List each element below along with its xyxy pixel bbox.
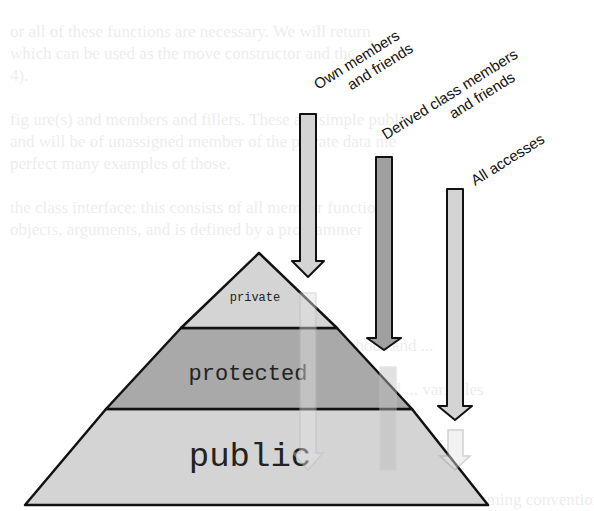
arrow-2-faded — [380, 367, 396, 470]
pyramid: private protected public — [25, 253, 488, 505]
label-all-accesses: All accesses — [468, 130, 548, 189]
layer-label-public: public — [189, 438, 311, 476]
layer-label-private: private — [230, 291, 280, 305]
label-all-accesses-line1: All accesses — [468, 130, 548, 189]
arrow-derived-members — [367, 157, 401, 350]
access-pyramid-diagram: private protected public Own members and… — [0, 0, 594, 511]
arrow-all-accesses — [438, 189, 472, 420]
arrow-own-members — [292, 114, 324, 277]
layer-label-protected: protected — [189, 362, 308, 387]
label-own-members: Own members and friends — [311, 24, 416, 108]
